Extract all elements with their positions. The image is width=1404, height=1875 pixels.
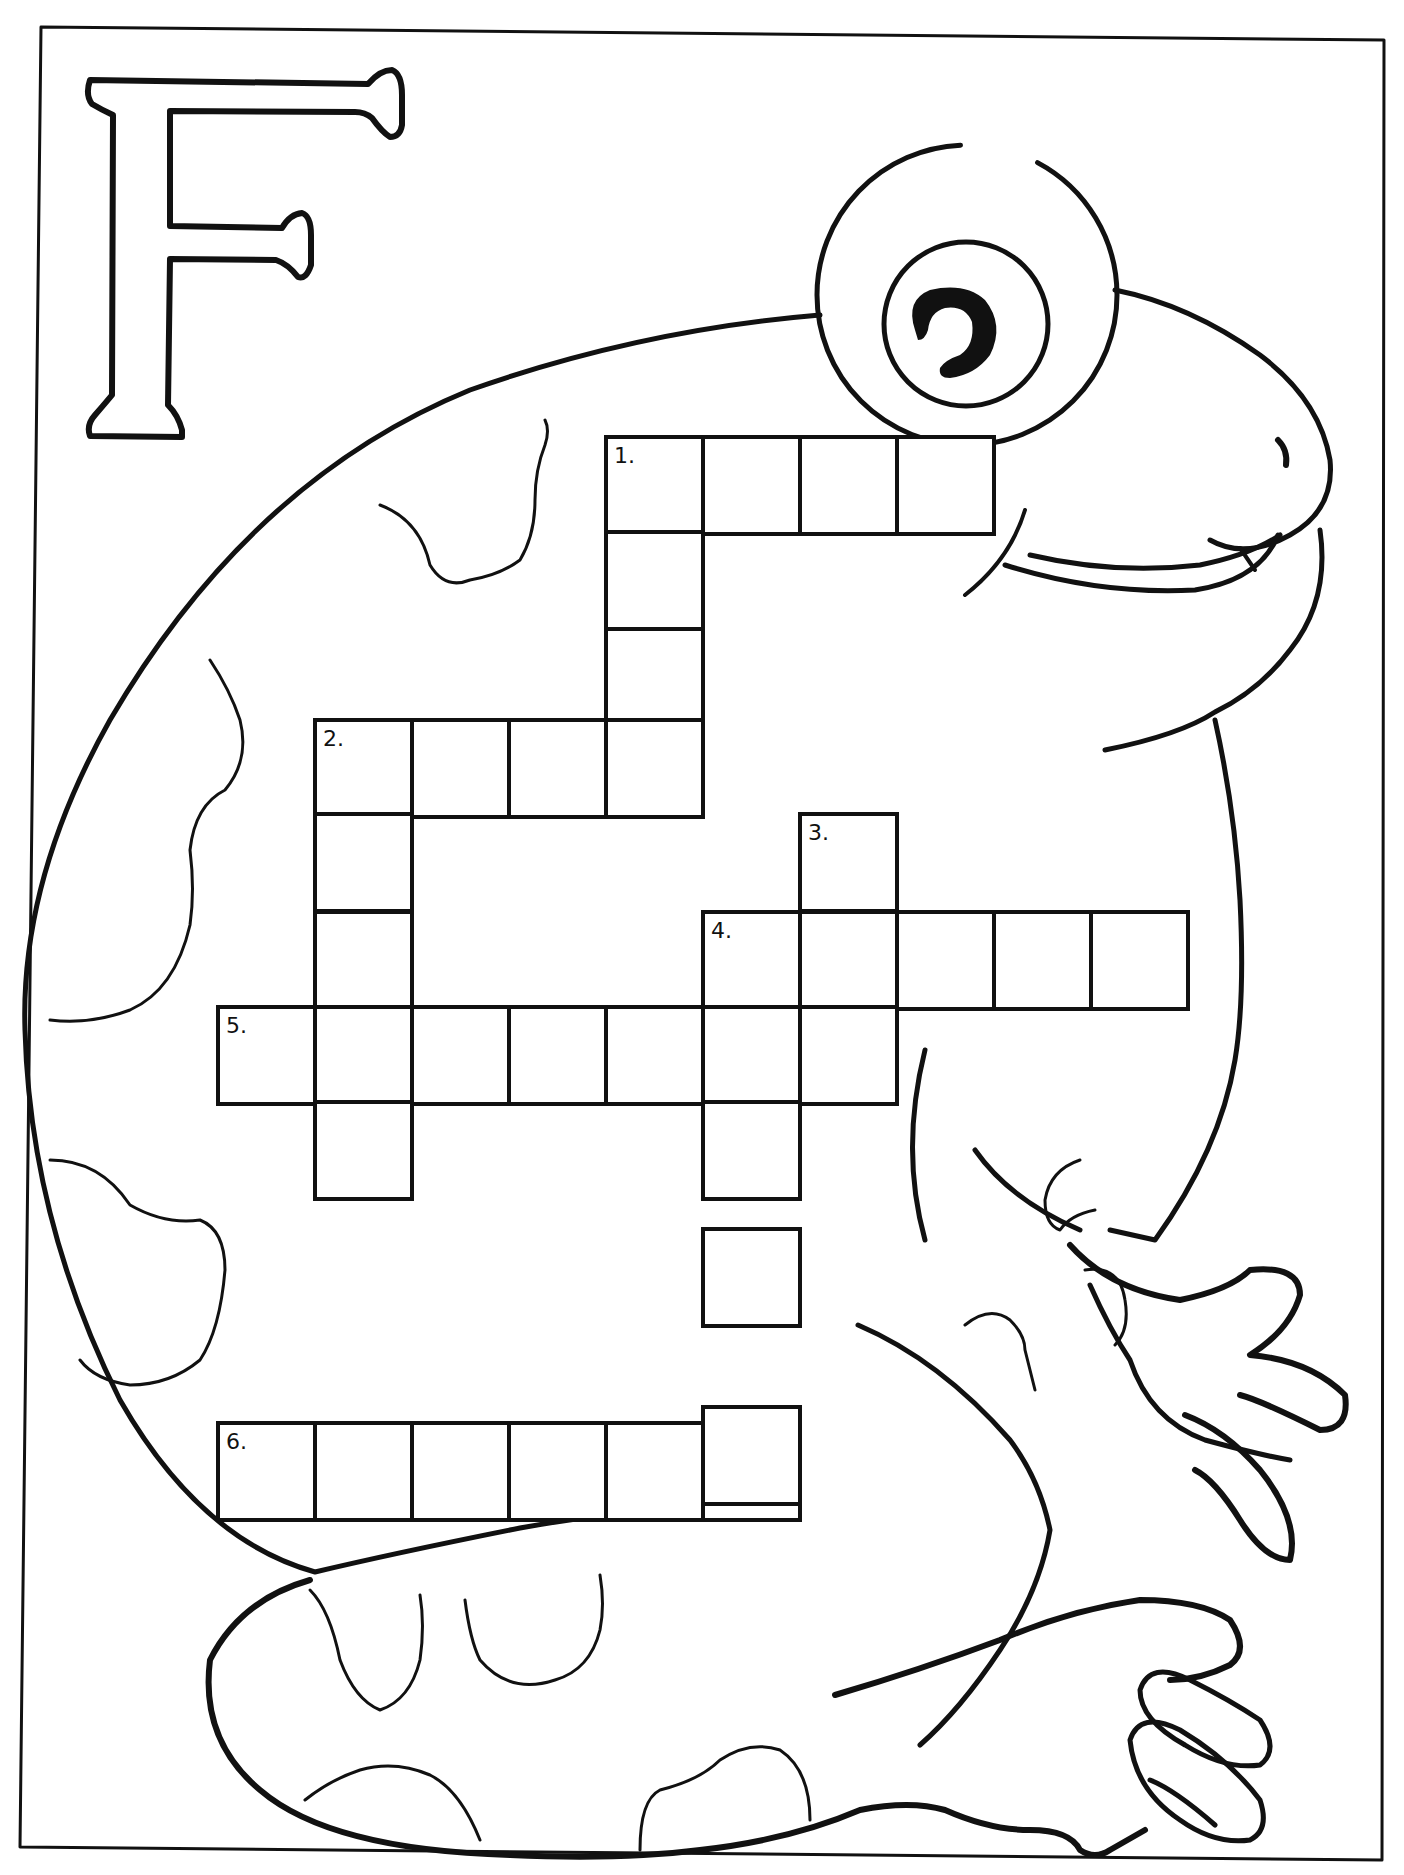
crossword-cell[interactable] [1089,910,1190,1011]
crossword-cell[interactable] [313,1421,414,1522]
crossword-cell[interactable] [410,1421,511,1522]
crossword-cell[interactable]: 3. [798,812,899,913]
clue-number: 5. [226,1015,247,1037]
crossword-cell[interactable] [701,1227,802,1328]
crossword-cell[interactable] [604,627,705,728]
clue-number: 3. [808,822,829,844]
crossword-cell[interactable] [313,1005,414,1106]
crossword-cell[interactable] [798,910,899,1011]
frog-eye-inner [884,242,1048,406]
crossword-cell[interactable] [604,718,705,819]
crossword-cell[interactable] [410,718,511,819]
letter-f-icon [88,70,402,437]
crossword-cell[interactable] [701,435,802,536]
crossword-cell[interactable] [701,1100,802,1201]
clue-number: 4. [711,920,732,942]
crossword-cell[interactable] [507,1421,608,1522]
crossword-cell[interactable] [701,1405,802,1506]
crossword-cell[interactable]: 5. [216,1005,317,1106]
crossword-cell[interactable]: 2. [313,718,414,819]
frog-nostril-icon [1278,440,1286,465]
crossword-cell[interactable] [895,910,996,1011]
crossword-cell[interactable] [313,812,414,913]
crossword-cell[interactable] [604,530,705,631]
crossword-cell[interactable] [410,1005,511,1106]
crossword-cell[interactable]: 6. [216,1421,317,1522]
crossword-cell[interactable] [604,1005,705,1106]
crossword-cell[interactable] [507,718,608,819]
frog-head-outline [1115,290,1331,549]
crossword-cell[interactable] [604,1421,705,1522]
clue-number: 6. [226,1431,247,1453]
crossword-cell[interactable]: 4. [701,910,802,1011]
clue-number: 1. [614,445,635,467]
crossword-cell[interactable] [313,910,414,1011]
crossword-cell[interactable]: 1. [604,435,705,536]
crossword-cell[interactable] [313,1100,414,1201]
frog-leg-outline [209,1580,1145,1857]
crossword-cell[interactable] [895,435,996,536]
crossword-cell[interactable] [798,435,899,536]
crossword-cell[interactable] [701,1005,802,1106]
crossword-cell[interactable] [798,1005,899,1106]
frog-pupil-icon [912,288,996,378]
crossword-cell[interactable] [507,1005,608,1106]
crossword-cell[interactable] [992,910,1093,1011]
clue-number: 2. [323,728,344,750]
coloring-page: 1.2.3.4.5.6. [0,0,1404,1875]
